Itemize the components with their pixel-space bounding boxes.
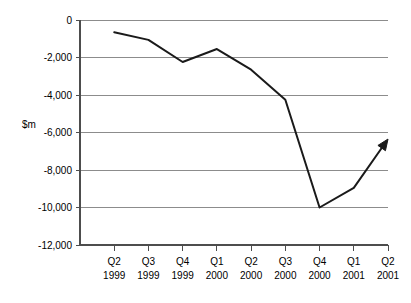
x-axis (80, 245, 388, 251)
x-tick-label-quarter: Q2 (108, 256, 122, 267)
x-tick-label-quarter: Q1 (210, 256, 224, 267)
data-series (114, 32, 384, 207)
x-tick-label-quarter: Q2 (381, 256, 395, 267)
x-tick-label-quarter: Q3 (279, 256, 293, 267)
x-tick-label-year: 1999 (103, 270, 126, 281)
x-tick-label-year: 1999 (137, 270, 160, 281)
x-tick-label-quarter: Q3 (142, 256, 156, 267)
gridlines (80, 20, 388, 208)
y-tick-label: -6,000 (44, 127, 73, 138)
chart-container: 0-2,000-4,000-6,000-8,000-10,000-12,000 … (0, 0, 411, 303)
y-axis-label: $m (22, 119, 36, 130)
y-tick-label: -10,000 (38, 202, 72, 213)
series-line (114, 32, 384, 207)
x-tick-label-year: 2000 (274, 270, 297, 281)
x-tick-label-year: 2000 (308, 270, 331, 281)
x-tick-label-quarter: Q4 (313, 256, 327, 267)
x-tick-label-year: 2001 (343, 270, 366, 281)
trend-arrow-icon (378, 139, 388, 151)
x-tick-label-quarter: Q1 (347, 256, 361, 267)
line-chart: 0-2,000-4,000-6,000-8,000-10,000-12,000 … (0, 0, 411, 303)
y-tick-label: -12,000 (38, 240, 72, 251)
x-tick-labels: Q21999Q31999Q41999Q12000Q22000Q32000Q420… (103, 256, 399, 281)
y-tick-labels: 0-2,000-4,000-6,000-8,000-10,000-12,000 (38, 15, 80, 251)
y-tick-label: -8,000 (44, 165, 73, 176)
x-tick-label-year: 2000 (206, 270, 229, 281)
y-tick-label: -4,000 (44, 90, 73, 101)
x-tick-label-quarter: Q2 (244, 256, 258, 267)
x-tick-label-year: 2001 (377, 270, 400, 281)
x-tick-label-year: 1999 (172, 270, 195, 281)
x-tick-label-year: 2000 (240, 270, 263, 281)
arrowhead-icon (378, 139, 388, 151)
x-tick-label-quarter: Q4 (176, 256, 190, 267)
y-tick-label: -2,000 (44, 52, 73, 63)
y-tick-label: 0 (66, 15, 72, 26)
